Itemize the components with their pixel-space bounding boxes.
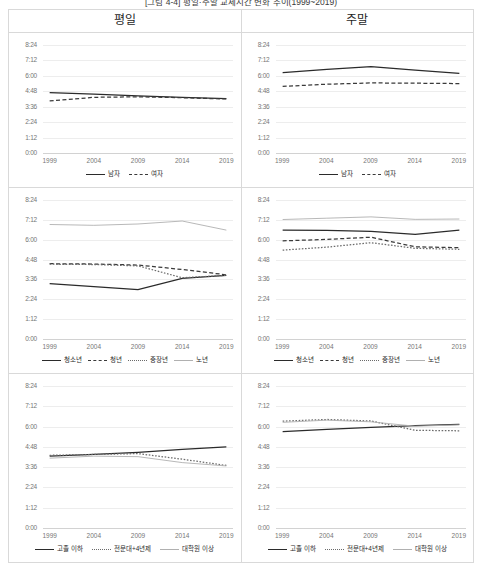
chart-legend: 청소년청년중장년노년: [242, 356, 474, 364]
table-row: 8:247:126:004:483:362:241:120:0019992004…: [9, 374, 474, 563]
series-lines: [9, 188, 241, 373]
legend-swatch-icon: [360, 360, 379, 361]
legend-swatch-icon: [319, 174, 338, 175]
series-lines: [242, 33, 474, 187]
table-row: 8:247:126:004:483:362:241:120:0019992004…: [9, 188, 474, 374]
legend-swatch-icon: [129, 174, 148, 175]
legend-label: 청소년: [296, 356, 314, 364]
legend-swatch-icon: [92, 549, 111, 550]
legend-swatch-icon: [35, 549, 54, 550]
legend-swatch-icon: [42, 360, 61, 361]
legend-item-대학원 이상[interactable]: 대학원 이상: [393, 545, 447, 553]
series-line-청소년: [50, 275, 227, 289]
legend-label: 대학원 이상: [415, 545, 447, 553]
legend-label: 중장년: [150, 356, 168, 364]
series-line-남자: [282, 67, 459, 74]
chart-education-weekend: 8:247:126:004:483:362:241:120:0019992004…: [242, 374, 474, 562]
cell-education-weekday: 8:247:126:004:483:362:241:120:0019992004…: [9, 374, 242, 563]
figure-title: [그림 4-4] 평일·주말 교제시간 변화 추이(1999~2019): [0, 0, 482, 8]
cell-age-weekend: 8:247:126:004:483:362:241:120:0019992004…: [241, 188, 474, 374]
chart-age-weekday: 8:247:126:004:483:362:241:120:0019992004…: [9, 188, 241, 373]
cell-age-weekday: 8:247:126:004:483:362:241:120:0019992004…: [9, 188, 242, 374]
legend-item-노년[interactable]: 노년: [406, 356, 440, 364]
series-line-청년: [282, 237, 459, 247]
chart-grid-table: 평일 주말 8:247:126:004:483:362:241:120:0019…: [8, 9, 474, 563]
legend-label: 대학원 이상: [182, 545, 214, 553]
series-line-대학원 이상: [282, 420, 459, 426]
legend-swatch-icon: [406, 360, 425, 361]
legend-swatch-icon: [128, 360, 147, 361]
legend-item-청년[interactable]: 청년: [88, 356, 122, 364]
legend-item-고졸 이하[interactable]: 고졸 이하: [268, 545, 316, 553]
legend-item-중장년[interactable]: 중장년: [128, 356, 168, 364]
legend-label: 전문대+4년제: [347, 545, 384, 553]
legend-item-전문대+4년제[interactable]: 전문대+4년제: [325, 545, 384, 553]
legend-label: 중장년: [382, 356, 400, 364]
legend-item-남자[interactable]: 남자: [86, 170, 120, 178]
legend-label: 청년: [110, 356, 122, 364]
legend-swatch-icon: [88, 360, 107, 361]
legend-item-여자[interactable]: 여자: [362, 170, 396, 178]
legend-item-남자[interactable]: 남자: [319, 170, 353, 178]
chart-legend: 남자여자: [242, 170, 474, 178]
column-header-weekend: 주말: [241, 10, 474, 33]
chart-legend: 고졸 이하전문대+4년제대학원 이상: [9, 545, 241, 553]
legend-swatch-icon: [393, 549, 412, 550]
figure-page: [그림 4-4] 평일·주말 교제시간 변화 추이(1999~2019) 평일 …: [0, 0, 482, 574]
legend-swatch-icon: [160, 549, 179, 550]
legend-label: 고졸 이하: [290, 545, 316, 553]
legend-item-청소년[interactable]: 청소년: [42, 356, 82, 364]
legend-swatch-icon: [274, 360, 293, 361]
legend-item-청년[interactable]: 청년: [320, 356, 354, 364]
series-lines: [9, 374, 241, 562]
legend-swatch-icon: [174, 360, 193, 361]
legend-label: 청년: [342, 356, 354, 364]
series-line-여자: [282, 83, 459, 86]
series-line-노년: [50, 221, 227, 230]
legend-swatch-icon: [320, 360, 339, 361]
cell-education-weekend: 8:247:126:004:483:362:241:120:0019992004…: [241, 374, 474, 563]
chart-legend: 청소년청년중장년노년: [9, 356, 241, 364]
legend-swatch-icon: [86, 174, 105, 175]
chart-gender-weekday: 8:247:126:004:483:362:241:120:0019992004…: [9, 33, 241, 187]
legend-label: 노년: [196, 356, 208, 364]
series-lines: [242, 374, 474, 562]
legend-label: 청소년: [64, 356, 82, 364]
legend-item-중장년[interactable]: 중장년: [360, 356, 400, 364]
legend-label: 여자: [151, 170, 163, 178]
chart-legend: 남자여자: [9, 170, 241, 178]
cell-gender-weekend: 8:247:126:004:483:362:241:120:0019992004…: [241, 33, 474, 188]
series-line-청년: [50, 264, 227, 275]
series-line-청소년: [282, 230, 459, 234]
legend-label: 노년: [428, 356, 440, 364]
legend-swatch-icon: [325, 549, 344, 550]
table-header-row: 평일 주말: [9, 10, 474, 33]
chart-legend: 고졸 이하전문대+4년제대학원 이상: [242, 545, 474, 553]
legend-item-청소년[interactable]: 청소년: [274, 356, 314, 364]
legend-label: 남자: [341, 170, 353, 178]
chart-gender-weekend: 8:247:126:004:483:362:241:120:0019992004…: [242, 33, 474, 187]
legend-item-전문대+4년제[interactable]: 전문대+4년제: [92, 545, 151, 553]
series-line-노년: [282, 217, 459, 220]
legend-label: 전문대+4년제: [114, 545, 151, 553]
legend-swatch-icon: [268, 549, 287, 550]
table-row: 8:247:126:004:483:362:241:120:0019992004…: [9, 33, 474, 188]
legend-item-여자[interactable]: 여자: [129, 170, 163, 178]
legend-item-고졸 이하[interactable]: 고졸 이하: [35, 545, 83, 553]
legend-item-대학원 이상[interactable]: 대학원 이상: [160, 545, 214, 553]
series-line-대학원 이상: [50, 456, 227, 466]
legend-label: 여자: [384, 170, 396, 178]
legend-swatch-icon: [362, 174, 381, 175]
legend-label: 남자: [108, 170, 120, 178]
legend-label: 고졸 이하: [57, 545, 83, 553]
chart-education-weekday: 8:247:126:004:483:362:241:120:0019992004…: [9, 374, 241, 562]
cell-gender-weekday: 8:247:126:004:483:362:241:120:0019992004…: [9, 33, 242, 188]
legend-item-노년[interactable]: 노년: [174, 356, 208, 364]
column-header-weekday: 평일: [9, 10, 242, 33]
series-lines: [9, 33, 241, 187]
series-line-중장년: [50, 264, 227, 278]
chart-age-weekend: 8:247:126:004:483:362:241:120:0019992004…: [242, 188, 474, 373]
series-line-중장년: [282, 243, 459, 250]
series-lines: [242, 188, 474, 373]
